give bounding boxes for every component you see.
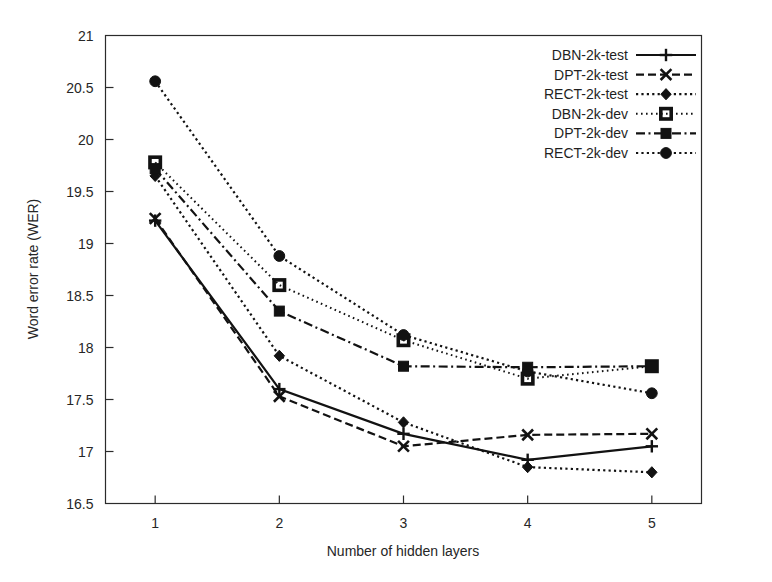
y-tick-label: 19.5 (66, 184, 93, 200)
x-axis-title: Number of hidden layers (327, 543, 480, 559)
data-point-marker (647, 361, 657, 371)
data-point-marker (398, 330, 409, 341)
legend-item-label: DPT-2k-dev (554, 125, 628, 141)
y-tick-label: 17.5 (66, 392, 93, 408)
legend-item-label: DPT-2k-test (554, 67, 628, 83)
x-tick-label: 2 (275, 515, 283, 531)
y-tick-label: 18.5 (66, 288, 93, 304)
data-point-marker (150, 76, 161, 87)
data-point-marker (661, 128, 671, 138)
legend-item-label: DBN-2k-test (552, 47, 628, 63)
x-tick-label: 3 (400, 515, 408, 531)
data-point-marker (150, 164, 160, 174)
legend-item-label: RECT-2k-dev (544, 145, 628, 161)
data-point-marker (399, 361, 409, 371)
y-tick-label: 17 (78, 444, 94, 460)
legend-item-label: DBN-2k-dev (552, 106, 628, 122)
y-tick-label: 18 (78, 340, 94, 356)
legend-item-label: RECT-2k-test (544, 86, 628, 102)
y-tick-label: 20 (78, 132, 94, 148)
y-axis-title: Word error rate (WER) (25, 199, 41, 340)
data-point-marker (661, 148, 672, 159)
data-point-marker (646, 388, 657, 399)
y-tick-label: 21 (78, 28, 94, 44)
data-point-marker (274, 306, 284, 316)
y-tick-label: 19 (78, 236, 94, 252)
data-point-marker (522, 366, 533, 377)
chart-background (0, 0, 772, 582)
x-tick-label: 1 (151, 515, 159, 531)
wer-vs-hidden-layers-line-chart: Word error rate (WER) Number of hidden l… (0, 0, 772, 582)
chart-figure: Word error rate (WER) Number of hidden l… (0, 0, 772, 582)
y-tick-label: 20.5 (66, 80, 93, 96)
x-tick-label: 4 (524, 515, 532, 531)
data-point-marker (274, 251, 285, 262)
y-tick-label: 16.5 (66, 496, 93, 512)
x-tick-label: 5 (648, 515, 656, 531)
